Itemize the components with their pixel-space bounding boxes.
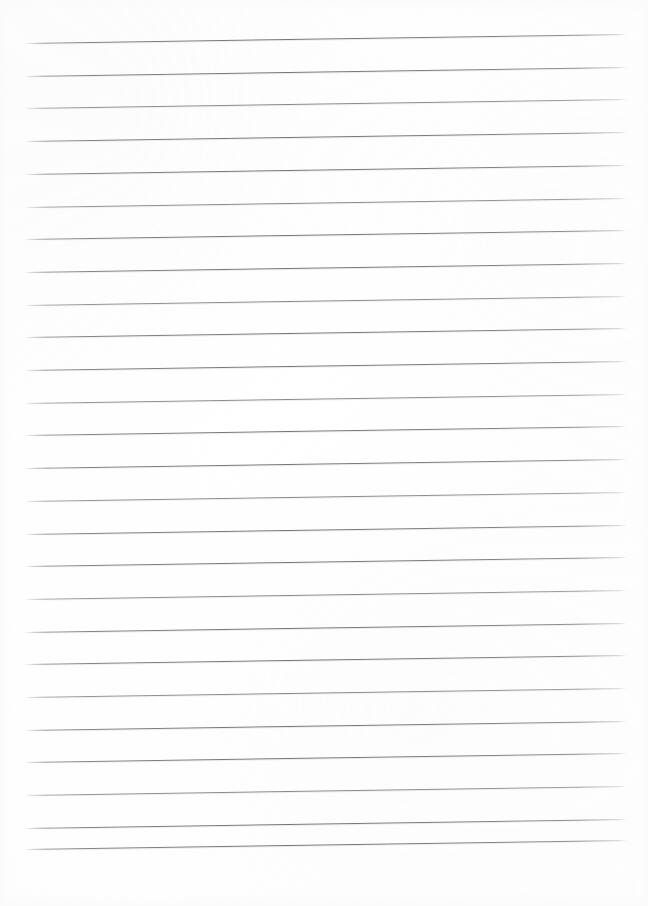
scanned-page bbox=[0, 0, 648, 906]
page-text-content bbox=[25, 43, 627, 853]
